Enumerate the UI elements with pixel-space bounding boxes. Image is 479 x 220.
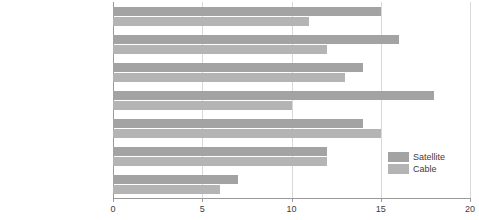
bar-cable: [113, 101, 292, 110]
x-tick-label: 10: [286, 204, 296, 214]
bar-cable: [113, 129, 381, 138]
legend-item: Cable: [388, 163, 445, 175]
legend-item: Satellite: [388, 151, 445, 163]
bar-cable: [113, 185, 220, 194]
legend-swatch-icon: [388, 164, 409, 174]
bar-cable: [113, 157, 327, 166]
bar-satellite: [113, 147, 327, 156]
x-tick-label: 15: [376, 204, 386, 214]
bar-satellite: [113, 119, 363, 128]
bar-satellite: [113, 35, 399, 44]
bar-group: Skilled manual: [0, 86, 479, 114]
x-tick-mark: [202, 198, 203, 202]
bar-satellite: [113, 175, 238, 184]
bar-group: Managerial and technical: [0, 30, 479, 58]
x-tick-label: 20: [465, 204, 475, 214]
x-tick-mark: [292, 198, 293, 202]
x-tick-label: 0: [110, 204, 115, 214]
bar-cable: [113, 45, 327, 54]
legend-label: Cable: [413, 165, 437, 174]
bar-cable: [113, 73, 345, 82]
x-tick-mark: [381, 198, 382, 202]
bar-chart: 05101520 ProfessionalManagerial and tech…: [0, 0, 479, 220]
bar-cable: [113, 17, 309, 26]
bar-group: Skilled non-manual: [0, 58, 479, 86]
bar-satellite: [113, 91, 434, 100]
legend-swatch-icon: [388, 152, 409, 162]
x-tick-mark: [113, 198, 114, 202]
x-tick-mark: [470, 198, 471, 202]
bar-satellite: [113, 7, 381, 16]
chart-legend: SatelliteCable: [388, 151, 445, 175]
legend-label: Satellite: [413, 153, 445, 162]
bar-group: Partly skilled: [0, 114, 479, 142]
bar-group: Professional: [0, 2, 479, 30]
bar-satellite: [113, 63, 363, 72]
x-tick-label: 5: [200, 204, 205, 214]
